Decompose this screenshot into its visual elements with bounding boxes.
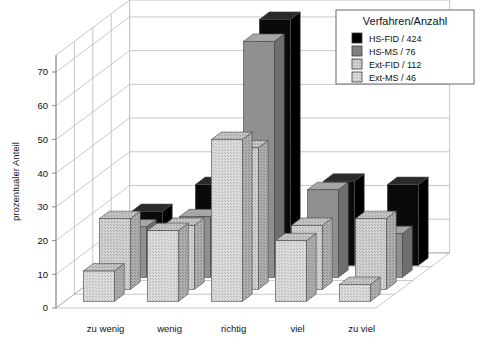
legend-title: Verfahren/Anzahl <box>363 15 447 27</box>
legend-swatch[interactable] <box>352 59 362 69</box>
bar <box>275 233 316 301</box>
bar <box>83 264 124 302</box>
y-tick-label: 30 <box>37 201 48 212</box>
bar <box>147 223 188 301</box>
bar <box>211 132 252 301</box>
legend-entry-label: HS-FID / 424 <box>369 34 422 44</box>
bar <box>339 277 380 301</box>
y-tick-label: 60 <box>37 100 48 111</box>
x-category-label: richtig <box>221 323 246 334</box>
grouped-3d-bar-chart: 010203040506070prozentualer Anteil zu we… <box>0 0 480 350</box>
y-tick-label: 40 <box>37 168 48 179</box>
chart-root: 010203040506070prozentualer Anteil zu we… <box>0 0 480 350</box>
x-category-label: viel <box>290 323 304 334</box>
y-tick-label: 0 <box>43 302 48 313</box>
y-tick-label: 70 <box>37 66 48 77</box>
legend-entry-label: Ext-MS / 46 <box>369 73 416 83</box>
legend-entry-label: Ext-FID / 112 <box>369 60 421 70</box>
legend-swatch[interactable] <box>352 33 362 43</box>
y-axis-title: prozentualer Anteil <box>10 142 21 221</box>
legend-swatch[interactable] <box>352 46 362 56</box>
x-category-label: zu wenig <box>87 323 125 334</box>
legend-swatch[interactable] <box>352 72 362 82</box>
legend-entry-label: HS-MS / 76 <box>369 47 416 57</box>
legend: Verfahren/AnzahlHS-FID / 424HS-MS / 76Ex… <box>336 10 474 84</box>
y-tick-label: 50 <box>37 134 48 145</box>
y-tick-label: 10 <box>37 269 48 280</box>
y-tick-label: 20 <box>37 235 48 246</box>
x-category-label: wenig <box>156 323 182 334</box>
x-category-label: zu viel <box>348 323 375 334</box>
